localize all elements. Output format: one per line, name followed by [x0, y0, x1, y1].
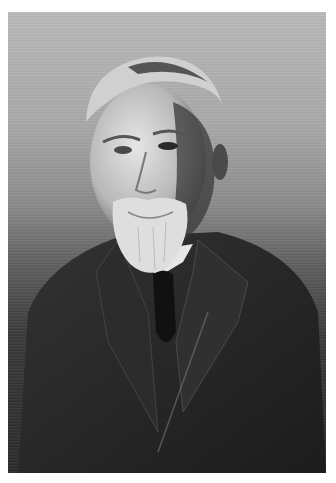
portrait-photo — [8, 12, 326, 473]
portrait-figure — [8, 12, 326, 473]
tie — [153, 271, 176, 343]
